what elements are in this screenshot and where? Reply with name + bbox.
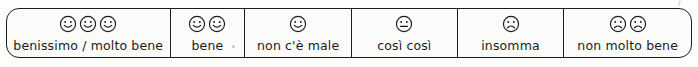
wellbeing-scale-table: benissimo / molto bene bene <box>6 8 692 58</box>
smiley-sad-icon <box>629 15 647 33</box>
scale-label: non molto bene <box>577 40 678 53</box>
scale-label: insomma <box>481 40 540 53</box>
face-group-happy-two <box>188 13 226 35</box>
scanned-page: benissimo / molto bene bene <box>0 0 698 67</box>
scale-label: bene <box>191 40 223 53</box>
scale-cell-non-ce-male[interactable]: non c'è male <box>245 9 352 57</box>
scale-label: non c'è male <box>257 40 339 53</box>
scan-edge-artifact <box>671 0 680 6</box>
scale-label: così così <box>377 40 431 53</box>
face-group-neutral-one <box>395 13 413 35</box>
scale-cell-bene[interactable]: bene <box>171 9 246 57</box>
scan-speck <box>232 45 235 48</box>
scale-cell-cosi-cosi[interactable]: così così <box>352 9 458 57</box>
face-group-happy-three <box>59 13 117 35</box>
scale-cell-non-molto-bene[interactable]: non molto bene <box>564 9 691 57</box>
face-group-happy-one <box>289 13 307 35</box>
smiley-happy-icon <box>289 15 307 33</box>
smiley-happy-icon <box>99 15 117 33</box>
smiley-neutral-icon <box>395 15 413 33</box>
smiley-happy-icon <box>188 15 206 33</box>
smiley-happy-icon <box>59 15 77 33</box>
scale-cell-insomma[interactable]: insomma <box>458 9 565 57</box>
smiley-happy-icon <box>79 15 97 33</box>
smiley-sad-icon <box>502 15 520 33</box>
smiley-happy-icon <box>208 15 226 33</box>
face-group-sad-one <box>502 13 520 35</box>
scale-label: benissimo / molto bene <box>13 40 163 53</box>
face-group-sad-two <box>609 13 647 35</box>
scale-cell-benissimo[interactable]: benissimo / molto bene <box>7 9 171 57</box>
smiley-sad-icon <box>609 15 627 33</box>
